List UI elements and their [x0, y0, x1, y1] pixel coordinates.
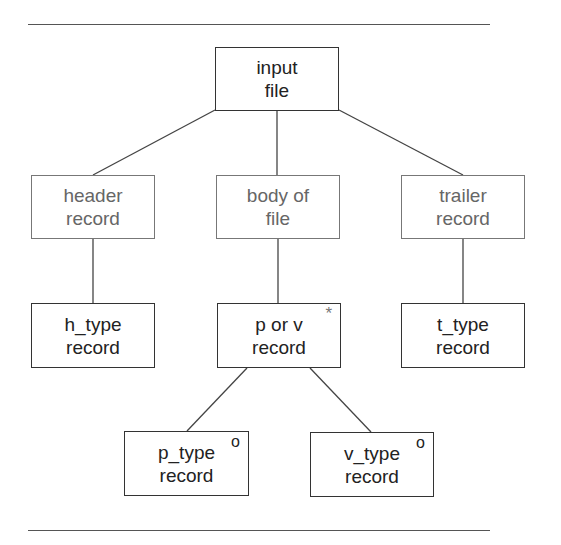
node-label-line1: h_type	[64, 313, 121, 336]
node-label-line1: header	[63, 184, 122, 207]
edge-input-header	[93, 110, 215, 175]
node-t-type-record: t_type record	[401, 303, 525, 368]
node-label-line2: record	[160, 464, 214, 487]
node-label-line2: record	[436, 336, 490, 359]
node-p-or-v-record: * p or v record	[217, 303, 341, 368]
node-label-line1: t_type	[437, 313, 489, 336]
node-input-file: input file	[215, 47, 339, 111]
edge-porv-ptype	[187, 368, 247, 431]
node-label-line2: file	[265, 79, 289, 102]
node-label-line2: record	[252, 336, 306, 359]
node-label-line2: file	[266, 207, 290, 230]
selection-marker-icon: o	[416, 435, 425, 451]
node-body-of-file: body of file	[216, 175, 340, 239]
node-label-line2: record	[66, 207, 120, 230]
node-label-line1: trailer	[439, 184, 487, 207]
node-header-record: header record	[31, 175, 155, 239]
node-label-line2: record	[66, 336, 120, 359]
edge-porv-vtype	[310, 368, 371, 432]
node-label-line1: v_type	[344, 442, 400, 465]
selection-marker-icon: o	[231, 434, 240, 450]
node-label-line2: record	[436, 207, 490, 230]
node-label-line1: p or v	[255, 313, 303, 336]
node-label-line1: body of	[247, 184, 309, 207]
node-trailer-record: trailer record	[401, 175, 525, 239]
node-v-type-record: o v_type record	[310, 432, 434, 497]
node-label-line2: record	[345, 465, 399, 488]
jackson-structure-diagram: input file header record body of file tr…	[0, 0, 561, 545]
node-label-line1: p_type	[158, 441, 215, 464]
node-label-line1: input	[256, 56, 297, 79]
edge-input-trailer	[339, 110, 463, 175]
node-p-type-record: o p_type record	[124, 431, 249, 496]
node-h-type-record: h_type record	[31, 303, 155, 368]
iteration-marker-icon: *	[325, 306, 332, 322]
